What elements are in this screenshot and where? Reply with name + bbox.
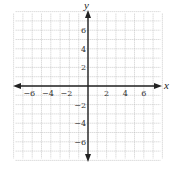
y-axis-up-arrow-icon (85, 10, 91, 18)
y-tick-label: 2 (81, 63, 86, 72)
y-axis-label: y (83, 0, 89, 11)
x-axis-right-arrow-icon (154, 83, 162, 89)
x-tick-label: 6 (141, 89, 146, 98)
x-tick-label: −6 (23, 89, 35, 98)
y-tick-label: 6 (81, 26, 86, 35)
x-tick-label: 4 (123, 89, 128, 98)
coordinate-plane: −6−4−2246642−2−4−6 x y (0, 0, 180, 174)
y-tick-label: −6 (74, 138, 86, 147)
x-tick-label: −4 (42, 89, 54, 98)
axes (13, 10, 162, 162)
y-tick-label: −2 (74, 101, 86, 110)
x-axis-left-arrow-icon (13, 83, 21, 89)
x-axis-label: x (163, 79, 169, 91)
x-tick-label: 2 (104, 89, 109, 98)
y-tick-label: −4 (74, 119, 86, 128)
x-tick-label: −2 (61, 89, 73, 98)
y-tick-label: 4 (81, 45, 86, 54)
y-axis-down-arrow-icon (85, 154, 91, 162)
